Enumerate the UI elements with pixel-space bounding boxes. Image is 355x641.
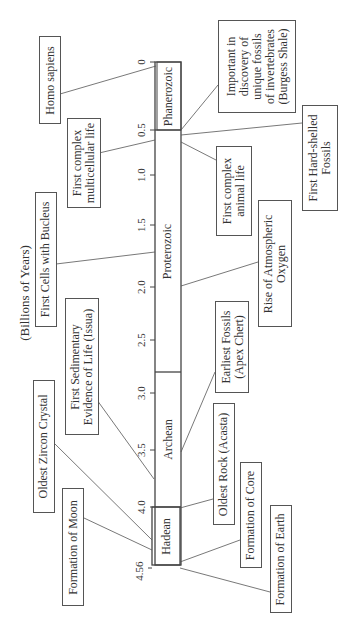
era-hadean: Hadean	[152, 507, 180, 565]
event-oldest-rock: Oldest Rock (Acasta)	[213, 403, 235, 525]
event-label-line: First Sedimentary	[69, 308, 82, 424]
event-first-hard-shelled-fossils: First Hard-shelled Fossils	[302, 105, 338, 211]
event-label-line: discovery of	[238, 28, 251, 104]
era-proterozoic: Proterozoic	[155, 130, 181, 372]
event-label-line: First complex	[221, 158, 234, 224]
event-label: Homo sapiens	[44, 46, 57, 114]
tick-label-0: 0	[135, 47, 147, 77]
tick-label-4-0: 4.0	[135, 492, 147, 522]
tick-label-0-5: 0.5	[135, 115, 147, 145]
axis-title: (Billions of Years)	[17, 233, 33, 353]
event-label-line: unique fossils	[251, 28, 264, 104]
event-label: Oldest Rock (Acasta)	[218, 412, 231, 515]
era-archean: Archean	[155, 372, 181, 507]
event-label: Oldest Zircon Crystal	[38, 395, 51, 499]
event-label-line: animal life	[234, 158, 247, 224]
event-label-line: multicellular life	[84, 123, 97, 203]
event-first-sedimentary-evidence: First Sedimentary Evidence of Life (Issu…	[65, 298, 99, 435]
event-label: Formation of Earth	[275, 513, 288, 605]
event-label-line: (Apex Chert)	[232, 310, 245, 383]
event-label: First complex multicellular life	[71, 123, 97, 203]
event-label-line: First complex	[71, 123, 84, 203]
event-label-line: Oxygen	[275, 214, 288, 313]
event-label-line: Evidence of Life (Issua)	[82, 308, 95, 424]
event-formation-of-core: Formation of Core	[240, 462, 262, 568]
event-label-line: Earliest Fossils	[219, 310, 232, 383]
event-rise-of-atmospheric-oxygen: Rise of Atmospheric Oxygen	[258, 200, 292, 327]
event-label: First Sedimentary Evidence of Life (Issu…	[69, 308, 95, 424]
era-label: Proterozoic	[161, 223, 176, 278]
event-formation-of-moon: Formation of Moon	[62, 488, 84, 606]
event-first-complex-multicellular-life: First complex multicellular life	[67, 118, 101, 208]
era-phanerozoic: Phanerozoic	[157, 62, 181, 130]
event-label-line: First Hard-shelled	[307, 115, 320, 202]
event-oldest-zircon-crystal: Oldest Zircon Crystal	[33, 380, 55, 513]
tick-label-3-0: 3.0	[135, 378, 147, 408]
event-label: Formation of Core	[245, 470, 258, 559]
event-burgess-shale: Important in discovery of unique fossils…	[218, 20, 296, 113]
tick-label-4-56: 4.56	[133, 556, 145, 586]
era-label: Phanerozoic	[162, 66, 177, 125]
event-label: First Hard-shelled Fossils	[307, 115, 333, 202]
event-label: Earliest Fossils (Apex Chert)	[219, 310, 245, 383]
tick-label-3-5: 3.5	[135, 435, 147, 465]
event-label-line: (Burgess Shale)	[277, 28, 290, 104]
event-label: Rise of Atmospheric Oxygen	[262, 214, 288, 313]
tick-label-1-5: 1.5	[135, 210, 147, 240]
event-label-line: of invertebrates	[264, 28, 277, 104]
era-label: Archean	[161, 419, 176, 460]
event-label-line: Fossils	[320, 115, 333, 202]
event-label: First complex animal life	[221, 158, 247, 224]
event-earliest-fossils: Earliest Fossils (Apex Chert)	[215, 301, 249, 393]
tick-label-1-0: 1.0	[135, 160, 147, 190]
geologic-timeline-diagram: (Billions of Years) 0 0.5 1.0 1.5 2.0 2.…	[0, 0, 355, 641]
event-label: First Cells with Bucleus	[40, 202, 53, 318]
tick-label-2-0: 2.0	[135, 272, 147, 302]
event-first-complex-animal-life: First complex animal life	[216, 146, 252, 236]
event-label-line: Rise of Atmospheric	[262, 214, 275, 313]
event-label: Formation of Moon	[67, 500, 80, 595]
event-homo-sapiens: Homo sapiens	[39, 36, 61, 124]
event-label: Important in discovery of unique fossils…	[225, 28, 290, 104]
tick-label-2-5: 2.5	[135, 325, 147, 355]
era-label: Hadean	[159, 518, 174, 555]
event-label-line: Important in	[225, 28, 238, 104]
event-first-cells-nucleus: First Cells with Bucleus	[35, 192, 57, 327]
event-formation-of-earth: Formation of Earth	[270, 505, 292, 613]
